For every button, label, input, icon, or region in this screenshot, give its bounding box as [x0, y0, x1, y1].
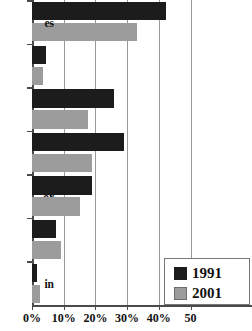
- bar-1991: [32, 220, 56, 238]
- x-axis-tick-label: 40%: [147, 311, 171, 326]
- bar-1991: [32, 264, 37, 282]
- bar-group: in: [32, 133, 252, 172]
- x-axis-tick-label: 0%: [23, 311, 41, 326]
- x-axis-tick: [159, 305, 160, 310]
- gray-swatch-icon: [174, 287, 187, 300]
- category-label: es: [0, 17, 54, 29]
- x-axis-tick: [95, 305, 96, 310]
- category-tick: [27, 174, 32, 176]
- bar-group: re: [32, 220, 252, 259]
- category-tick: [27, 218, 32, 220]
- x-axis-tick-label: 10%: [52, 311, 76, 326]
- black-swatch-icon: [174, 267, 187, 280]
- bar-1991: [32, 176, 92, 194]
- legend-label: 1991: [192, 266, 222, 281]
- bar-2001: [32, 285, 40, 303]
- bar-group: es: [32, 2, 252, 41]
- category-tick: [27, 87, 32, 89]
- category-tick: [27, 0, 32, 2]
- x-axis-tick-label: 30%: [115, 311, 139, 326]
- category-tick: [27, 44, 32, 46]
- bar-2001: [32, 197, 80, 215]
- x-axis-tick: [191, 305, 192, 310]
- x-axis-line: [32, 305, 252, 307]
- bar-chart: esto 2orinptrery e 0%10%20%30%40%50 1991…: [0, 0, 252, 331]
- bar-2001: [32, 67, 43, 85]
- legend-item: 2001: [174, 283, 249, 303]
- legend-item: 1991: [174, 263, 249, 283]
- bar-group: pt: [32, 176, 252, 215]
- category-tick: [27, 131, 32, 133]
- bar-1991: [32, 133, 124, 151]
- x-axis-tick-label: 20%: [83, 311, 107, 326]
- x-axis-tick: [32, 305, 33, 310]
- bar-1991: [32, 46, 46, 64]
- x-axis-tick: [127, 305, 128, 310]
- x-axis-tick: [64, 305, 65, 310]
- bar-2001: [32, 241, 61, 259]
- legend-label: 2001: [192, 286, 222, 301]
- bar-2001: [32, 110, 88, 128]
- category-tick: [27, 261, 32, 263]
- bar-group: or: [32, 89, 252, 128]
- chart-legend: 1991 2001: [164, 258, 250, 305]
- bar-group: to 2: [32, 46, 252, 85]
- x-axis-tick-label: 50: [185, 311, 197, 326]
- bar-2001: [32, 154, 92, 172]
- bar-1991: [32, 89, 114, 107]
